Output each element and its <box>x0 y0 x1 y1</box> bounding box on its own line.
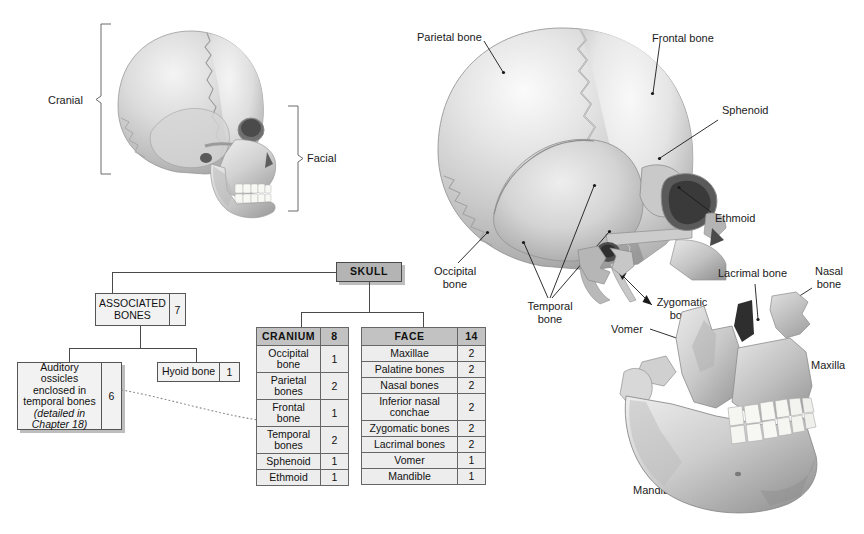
connector-to-cranium <box>301 312 302 327</box>
connector-root-to-associated-h <box>112 272 336 273</box>
table-row: Frontal bone1 <box>257 400 349 427</box>
connector-root-down <box>369 282 370 312</box>
callout-lacrimal-bone: Lacrimal bone <box>718 267 787 280</box>
cranium-row-count: 1 <box>321 346 349 373</box>
cranium-row-name: Temporal bones <box>257 427 321 454</box>
face-row-name: Maxillae <box>362 346 458 362</box>
flow-root-skull[interactable]: SKULL <box>336 262 402 282</box>
face-row-count: 1 <box>458 469 486 485</box>
face-row-count: 2 <box>458 346 486 362</box>
cranium-table-header-row: CRANIUM 8 <box>257 328 349 346</box>
cranium-row-name: Frontal bone <box>257 400 321 427</box>
face-row-count: 2 <box>458 437 486 453</box>
detached-bone-fragment <box>576 246 636 286</box>
cranium-row-name: Occipital bone <box>257 346 321 373</box>
cranium-row-name: Ethmoid <box>257 470 321 486</box>
table-row: Inferior nasal conchae2 <box>362 394 486 421</box>
flow-hyoid-bone-label: Hyoid bone <box>158 363 219 381</box>
connector-associated-down <box>140 326 141 348</box>
flow-associated-bones-count: 7 <box>169 294 185 325</box>
flow-root-skull-label: SKULL <box>337 263 401 281</box>
face-row-name: Nasal bones <box>362 378 458 394</box>
table-row: Zygomatic bones2 <box>362 421 486 437</box>
table-row: Mandible1 <box>362 469 486 485</box>
face-header-count: 14 <box>458 328 486 346</box>
facial-bones-illustration <box>620 290 864 534</box>
flow-hyoid-bone[interactable]: Hyoid bone 1 <box>157 362 240 382</box>
table-row: Parietal bones2 <box>257 373 349 400</box>
table-row: Lacrimal bones2 <box>362 437 486 453</box>
callout-nasal-bone: Nasal bone <box>806 265 852 290</box>
face-table-header-row: FACE 14 <box>362 328 486 346</box>
face-table: FACE 14 Maxillae2 Palatine bones2 Nasal … <box>361 327 486 485</box>
callout-frontal-bone: Frontal bone <box>652 32 714 45</box>
face-header-name: FACE <box>362 328 458 346</box>
table-row: Occipital bone1 <box>257 346 349 373</box>
callout-temporal-bone: Temporal bone <box>519 300 581 325</box>
callout-parietal-bone: Parietal bone <box>417 31 482 44</box>
table-row: Nasal bones2 <box>362 378 486 394</box>
cranium-row-count: 1 <box>321 400 349 427</box>
flow-auditory-ossicles[interactable]: Auditory ossicles enclosed in temporal b… <box>17 362 122 430</box>
cranium-row-name: Sphenoid <box>257 454 321 470</box>
connector-associated-split <box>69 348 196 349</box>
cranium-row-count: 2 <box>321 373 349 400</box>
face-row-count: 2 <box>458 421 486 437</box>
table-row: Temporal bones2 <box>257 427 349 454</box>
flow-associated-bones-label: ASSOCIATED BONES <box>96 294 169 325</box>
table-row: Sphenoid1 <box>257 454 349 470</box>
flow-auditory-ossicles-count: 6 <box>101 363 121 429</box>
table-row: Palatine bones2 <box>362 362 486 378</box>
cranium-row-count: 2 <box>321 427 349 454</box>
cranium-row-name: Parietal bones <box>257 373 321 400</box>
flow-hyoid-bone-count: 1 <box>219 363 239 381</box>
connector-to-face <box>423 312 424 327</box>
flow-auditory-ossicles-label: Auditory ossicles enclosed in temporal b… <box>18 363 101 429</box>
table-row: Ethmoid1 <box>257 470 349 486</box>
face-row-name: Palatine bones <box>362 362 458 378</box>
face-row-name: Vomer <box>362 453 458 469</box>
cranium-header-name: CRANIUM <box>257 328 321 346</box>
connector-to-hyoid <box>196 348 197 362</box>
face-row-name: Inferior nasal conchae <box>362 394 458 421</box>
connector-tables-split <box>301 312 423 313</box>
cranium-row-count: 1 <box>321 470 349 486</box>
callout-occipital-bone: Occipital bone <box>424 265 486 290</box>
face-row-count: 2 <box>458 362 486 378</box>
flow-associated-bones[interactable]: ASSOCIATED BONES 7 <box>95 293 186 326</box>
cranium-header-count: 8 <box>321 328 349 346</box>
face-row-count: 2 <box>458 394 486 421</box>
table-row: Vomer1 <box>362 453 486 469</box>
cranium-row-count: 1 <box>321 454 349 470</box>
face-row-count: 2 <box>458 378 486 394</box>
cranium-table: CRANIUM 8 Occipital bone1 Parietal bones… <box>256 327 349 486</box>
table-row: Maxillae2 <box>362 346 486 362</box>
ossicles-temporal-dotted-link <box>120 388 260 424</box>
callout-ethmoid: Ethmoid <box>715 212 755 225</box>
face-row-name: Lacrimal bones <box>362 437 458 453</box>
face-row-name: Mandible <box>362 469 458 485</box>
connector-associated-stem <box>112 272 113 293</box>
face-row-name: Zygomatic bones <box>362 421 458 437</box>
face-row-count: 1 <box>458 453 486 469</box>
callout-sphenoid: Sphenoid <box>722 104 769 117</box>
connector-to-ossicles <box>69 348 70 362</box>
